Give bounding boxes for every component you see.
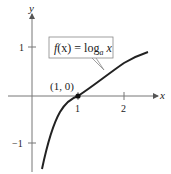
log-function-graph: y x 1 2 1 −1 (1, 0) f(x) = loga x	[0, 0, 171, 174]
point-1-0	[75, 93, 80, 98]
x-tick-label-1: 1	[75, 103, 80, 114]
y-axis-label: y	[28, 2, 34, 14]
function-label: f(x) = loga x	[54, 41, 112, 57]
graph-canvas: y x 1 2 1 −1 (1, 0) f(x) = loga x	[0, 0, 171, 174]
log-curve-line	[42, 52, 148, 169]
y-tick-label-1: 1	[19, 42, 24, 53]
point-label: (1, 0)	[50, 80, 74, 93]
callout-pointer-2	[96, 58, 104, 70]
x-tick-label-2: 2	[121, 103, 126, 114]
callout-pointer	[92, 58, 104, 70]
x-axis-label: x	[159, 89, 165, 101]
y-tick-label-minus1: −1	[12, 138, 23, 149]
log-curve	[42, 95, 78, 169]
